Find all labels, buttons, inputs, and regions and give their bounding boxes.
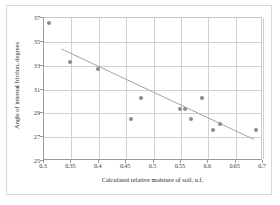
data-point xyxy=(218,122,222,126)
x-axis-tick-label: 0.6 xyxy=(204,162,211,169)
x-axis-title: Calculated relative moisture of soil, u.… xyxy=(43,176,262,183)
chart-figure: Angle of internal friction, degrees Calc… xyxy=(0,0,280,205)
x-axis-tick-label: 0.55 xyxy=(175,162,185,169)
y-axis-tick-mark xyxy=(40,160,43,161)
x-axis-tick-label: 0.5 xyxy=(149,162,156,169)
y-axis-tick-label: 33 xyxy=(26,61,40,68)
data-point xyxy=(183,107,187,111)
x-axis-tick-label: 0.7 xyxy=(258,162,265,169)
y-axis-tick-label: 37 xyxy=(26,14,40,21)
x-axis-tick-label: 0.3 xyxy=(39,162,46,169)
data-point xyxy=(129,117,133,121)
data-point xyxy=(200,96,204,100)
x-axis-tick-label: 0.4 xyxy=(94,162,101,169)
y-axis-tick-label: 35 xyxy=(26,37,40,44)
y-axis-title: Angle of internal friction, degrees xyxy=(13,21,20,151)
y-axis-tick-label: 25 xyxy=(26,157,40,164)
y-axis-tick-label: 27 xyxy=(26,133,40,140)
data-point xyxy=(96,67,100,71)
x-axis-tick-label: 0.45 xyxy=(120,162,130,169)
trendline xyxy=(44,18,263,161)
y-axis-tick-label: 31 xyxy=(26,85,40,92)
gridline-vertical xyxy=(263,18,264,159)
x-axis-tick-label: 0.65 xyxy=(229,162,239,169)
plot-area xyxy=(43,17,262,160)
y-axis-tick-label: 29 xyxy=(26,109,40,116)
x-axis-tick-label: 0.35 xyxy=(65,162,75,169)
